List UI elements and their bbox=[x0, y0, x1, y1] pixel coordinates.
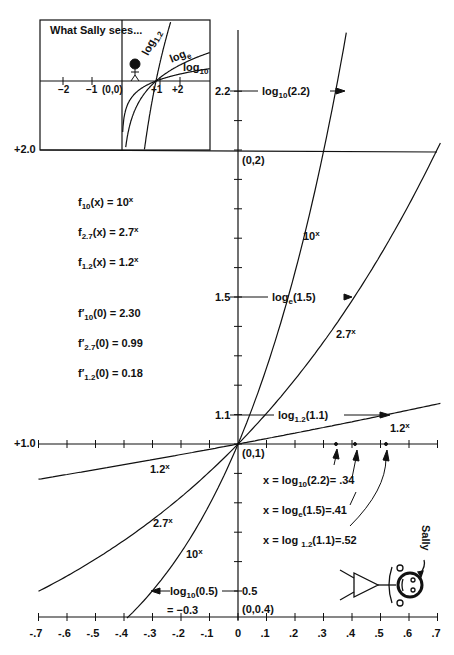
x-tick-label: -.6 bbox=[58, 628, 71, 639]
sally-small bbox=[130, 59, 140, 81]
point-0-04: (0,0.4) bbox=[242, 604, 274, 615]
x-tick-label: -.1 bbox=[201, 628, 214, 639]
deriv-f12: f′1.2(0) = 0.18 bbox=[78, 368, 143, 382]
def-f10: f10(x) = 10x bbox=[78, 196, 133, 211]
inset-tick-m1: −1 bbox=[86, 85, 97, 95]
inset-title: What Sally sees... bbox=[50, 25, 142, 36]
x-tick-label: .3 bbox=[318, 628, 327, 639]
point-0-1: (0,1) bbox=[242, 448, 265, 459]
x-tick-label: -.2 bbox=[172, 628, 185, 639]
deriv-f27: f′2.7(0) = 0.99 bbox=[78, 338, 143, 352]
label-y15: 1.5 bbox=[215, 292, 230, 303]
inset-tick-p2: +2 bbox=[172, 85, 183, 95]
curve-label-12x-right: 1.2x bbox=[390, 422, 410, 434]
label-y11: 1.1 bbox=[215, 410, 230, 421]
label-y2: +2.0 bbox=[14, 144, 36, 155]
deriv-f10: f′10(0) = 2.30 bbox=[78, 308, 141, 322]
inset-tick-origin: (0,0) bbox=[102, 85, 123, 95]
x-tick-label: .6 bbox=[403, 628, 412, 639]
sally-label: Sally bbox=[420, 525, 431, 551]
x-tick-label: .4 bbox=[346, 628, 355, 639]
inset-curve-log10 bbox=[123, 69, 210, 132]
inset-label-log10: log10 bbox=[183, 62, 208, 76]
curve-label-27x-upper: 2.7x bbox=[336, 328, 356, 340]
result-loge: x = loge(1.5)=.41 bbox=[263, 505, 347, 519]
curve-label-27x-lower: 2.7x bbox=[153, 517, 173, 529]
x-tick-label: .1 bbox=[261, 628, 270, 639]
result-log10: x = log10(2.2)= .34 bbox=[263, 475, 354, 489]
curve-label-12x-left: 1.2x bbox=[150, 463, 170, 475]
x-tick-label: -.4 bbox=[115, 628, 128, 639]
x-tick-label: .7 bbox=[432, 628, 441, 639]
x-tick-label: -.3 bbox=[144, 628, 157, 639]
curve-label-10x-lower: 10x bbox=[186, 548, 203, 560]
annot-loge-15: loge(1.5) bbox=[272, 292, 316, 306]
curve-label-10x-upper: 10x bbox=[303, 230, 320, 242]
annot-log12-11: log1.2(1.1) bbox=[278, 410, 328, 424]
x-tick-label: -.7 bbox=[30, 628, 43, 639]
point-0-2: (0,2) bbox=[242, 155, 265, 166]
x-tick-label: -.5 bbox=[87, 628, 100, 639]
label-y1: +1.0 bbox=[14, 438, 36, 449]
label-y05: 0.5 bbox=[242, 586, 257, 597]
inset-tick-p1: +1 bbox=[151, 85, 162, 95]
label-y22: 2.2 bbox=[215, 86, 230, 97]
x-tick-label: .5 bbox=[375, 628, 384, 639]
annot-log10-05-value: = −0.3 bbox=[167, 605, 198, 616]
def-f27: f2.7(x) = 2.7x bbox=[78, 226, 139, 241]
sally-figure bbox=[340, 560, 425, 606]
result-log12: x = log 1.2(1.1)=.52 bbox=[263, 535, 357, 549]
x-tick-label: .2 bbox=[289, 628, 298, 639]
inset-tick-m2: −2 bbox=[58, 85, 69, 95]
annot-log10-05: log10(0.5) bbox=[170, 586, 218, 600]
def-f12: f1.2(x) = 1.2x bbox=[78, 256, 139, 271]
annot-log10-22: log10(2.2) bbox=[262, 86, 310, 100]
x-tick-label: 0 bbox=[235, 628, 241, 639]
main-plot bbox=[0, 0, 454, 655]
